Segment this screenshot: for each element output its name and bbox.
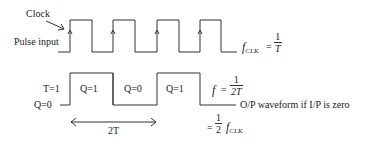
pulse-input-label: Pulse input — [14, 37, 59, 47]
clock-label: Clock — [26, 9, 50, 19]
clock-waveform — [58, 20, 237, 52]
q-zero-axis-label: Q=0 — [34, 100, 52, 110]
fclk-symbol: fCLK — [242, 41, 259, 55]
t-value-label: T=1 — [43, 84, 60, 94]
half-fclk-symbol: fCLK — [226, 121, 243, 135]
f-equals: = — [221, 85, 227, 95]
output-state-1: Q=1 — [80, 84, 98, 94]
half-fraction: 1 2 — [215, 113, 222, 135]
clock-pointer-arrow — [46, 21, 64, 30]
waveform-diagram — [0, 0, 370, 145]
output-caption: O/P waveform if I/P is zero — [240, 100, 350, 110]
period-span-label: 2T — [108, 126, 119, 136]
f-fraction: 1 2T — [230, 75, 243, 97]
fclk-equals: = — [266, 42, 272, 52]
output-state-3: Q=1 — [166, 84, 184, 94]
output-state-2: Q=0 — [124, 84, 142, 94]
f-symbol: f — [212, 84, 215, 96]
fclk-fraction: 1 T — [274, 32, 282, 54]
half-equals: = — [207, 123, 213, 133]
